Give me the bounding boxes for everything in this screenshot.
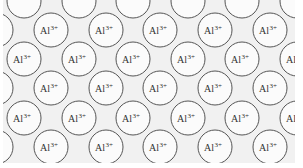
- al-ion: Al3+: [225, 42, 259, 76]
- al-ion: Al3+: [7, 42, 41, 76]
- al-ion: Al3+: [34, 71, 68, 105]
- al-ion: Al3+: [171, 42, 205, 76]
- al-ion: Al3+: [198, 71, 232, 105]
- ion-label: Al3+: [286, 53, 303, 65]
- al-ion: Al3+: [198, 130, 232, 164]
- al-ion: Al3+: [143, 130, 177, 164]
- al-ion-lattice-diagram: Al3+Al3+Al3+Al3+Al3+Al3+Al3+Al3+Al3+Al3+…: [0, 0, 303, 168]
- al-ion: Al3+: [116, 101, 150, 135]
- al-ion: Al3+: [253, 130, 287, 164]
- al-ion: Al3+: [253, 13, 287, 47]
- al-ion: Al3+: [89, 13, 123, 47]
- lattice-svg: Al3+Al3+Al3+Al3+Al3+Al3+Al3+Al3+Al3+Al3+…: [0, 0, 303, 168]
- al-ion: Al3+: [89, 71, 123, 105]
- ion-label: Al3+: [0, 141, 3, 153]
- ion-label: Al3+: [0, 82, 3, 94]
- al-ion: Al3+: [7, 101, 41, 135]
- al-ion: Al3+: [198, 13, 232, 47]
- al-ion: Al3+: [62, 42, 96, 76]
- ion-group: Al3+Al3+Al3+Al3+Al3+Al3+Al3+Al3+Al3+Al3+…: [0, 0, 303, 164]
- al-ion: Al3+: [171, 101, 205, 135]
- al-ion: Al3+: [225, 101, 259, 135]
- al-ion: Al3+: [34, 13, 68, 47]
- al-ion: Al3+: [34, 130, 68, 164]
- al-ion: Al3+: [89, 130, 123, 164]
- al-ion: Al3+: [143, 13, 177, 47]
- al-ion: Al3+: [253, 71, 287, 105]
- al-ion: Al3+: [62, 101, 96, 135]
- al-ion: Al3+: [116, 42, 150, 76]
- ion-label: Al3+: [286, 112, 303, 124]
- ion-label: Al3+: [0, 24, 3, 36]
- al-ion: Al3+: [143, 71, 177, 105]
